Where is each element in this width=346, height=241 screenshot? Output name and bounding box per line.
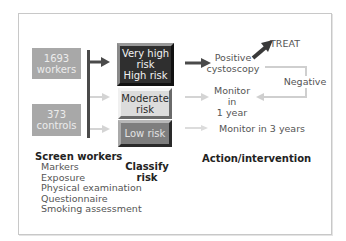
cystoscopy-label: cystoscopy bbox=[206, 63, 260, 74]
action-intervention-title: Action/intervention bbox=[202, 153, 311, 164]
monitor-3-years-text: Monitor in 3 years bbox=[219, 123, 309, 134]
controls-label: controls bbox=[32, 120, 81, 131]
workers-box: 1693 workers bbox=[32, 48, 81, 79]
controls-count: 373 bbox=[32, 109, 81, 120]
negative-text: Negative bbox=[282, 76, 328, 87]
monitor-1-year-text: Monitor in 1 year bbox=[212, 85, 252, 118]
moderate-label-risk: risk bbox=[121, 104, 169, 115]
moderate-label: Moderate bbox=[121, 93, 169, 104]
positive-label: Positive bbox=[206, 52, 260, 63]
workers-count: 1693 bbox=[32, 53, 81, 64]
positive-cystoscopy-text: Positive cystoscopy bbox=[206, 52, 260, 74]
low-risk-label: Low risk bbox=[121, 128, 169, 139]
arrow-icon bbox=[101, 57, 110, 67]
one-year-label: 1 year bbox=[212, 107, 252, 118]
classify-label: Classify bbox=[124, 161, 170, 172]
low-risk-box: Low risk bbox=[118, 120, 172, 147]
very-high-risk-box: Very high risk High risk bbox=[117, 43, 174, 86]
monitor-label: Monitor bbox=[212, 85, 252, 96]
high-risk-label: High risk bbox=[120, 70, 171, 81]
controls-box: 373 controls bbox=[32, 104, 81, 136]
treat-text: TREAT bbox=[270, 38, 310, 49]
workers-label: workers bbox=[32, 64, 81, 75]
in-label: in bbox=[212, 96, 252, 107]
list-item: Smoking assessment bbox=[41, 204, 142, 215]
very-high-label-risk: risk bbox=[120, 59, 171, 70]
moderate-risk-box: Moderate risk bbox=[118, 88, 172, 119]
very-high-label: Very high bbox=[120, 48, 171, 59]
classify-risk-title: Classify risk bbox=[124, 161, 170, 183]
list-item: Physical examination bbox=[41, 183, 142, 194]
risk-label: risk bbox=[124, 172, 170, 183]
